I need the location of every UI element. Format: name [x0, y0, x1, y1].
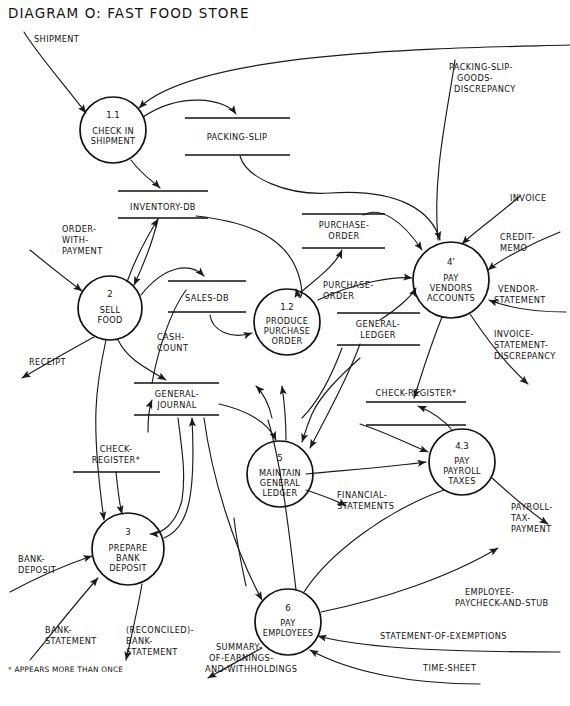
processes: 1.1 CHECK IN SHIPMENT 2 SELL FOOD 1.2 PR… — [78, 97, 495, 655]
flow-label-vendor-statement-1: VENDOR- — [498, 284, 539, 294]
flow-arrow-po-store-to-pay-vendors — [363, 212, 422, 250]
flow-line-packing-slip-goods-discrepancy — [437, 60, 455, 240]
process-number: 1.1 — [106, 110, 120, 120]
flow-label-vendor-statement-2: STATEMENT — [494, 295, 546, 305]
flow-label-payroll-tax-payment-2: TAX- — [510, 513, 531, 523]
data-store-label: GENERAL- — [155, 389, 199, 399]
flow-label-reconciled-bank-statement-1: (RECONCILED)- — [126, 625, 194, 635]
process-number: 1.2 — [280, 302, 294, 312]
data-store-general-ledger[interactable]: GENERAL- LEDGER — [337, 313, 420, 345]
data-store-check-register-upper[interactable]: CHECK-REGISTER* — [366, 388, 466, 425]
flow-label-purchase-order-2: ORDER — [323, 291, 354, 301]
flow-label-credit-memo-2: MEMO — [500, 243, 527, 253]
process-1-2-produce-purchase-order[interactable]: 1.2 PRODUCE PURCHASE ORDER — [254, 289, 320, 355]
process-name-line-3: ORDER — [272, 336, 303, 346]
process-name-line-2: VENDORS — [430, 283, 473, 293]
data-store-purchase-order[interactable]: PURCHASE- ORDER — [302, 214, 385, 248]
process-3-prepare-bank-deposit[interactable]: 3 PREPARE BANK DEPOSIT — [92, 513, 164, 585]
flow-arrow-sell-to-prepare-bank — [96, 340, 106, 520]
flow-arrow-prepare-to-journal — [164, 418, 193, 538]
data-store-label-2: REGISTER* — [92, 455, 140, 465]
data-store-sales-db[interactable]: SALES-DB — [168, 281, 246, 312]
flow-arrow-payroll-to-check-register — [418, 406, 452, 430]
process-name-line-2: FOOD — [97, 315, 122, 325]
flow-label-employee-paycheck-and-stub-2: PAYCHECK-AND-STUB — [455, 598, 549, 608]
flow-line-gl-down — [302, 348, 342, 418]
process-name-line-3: ACCOUNTS — [427, 293, 475, 303]
flow-label-employee-paycheck-and-stub-1: EMPLOYEE- — [465, 587, 514, 597]
data-store-label-2: ORDER — [328, 231, 359, 241]
flow-label-purchase-order-1: PURCHASE- — [323, 280, 374, 290]
flow-label-shipment: SHIPMENT — [34, 34, 80, 44]
flow-label-invoice: INVOICE — [510, 193, 547, 203]
process-5-maintain-general-ledger[interactable]: 5 MAINTAIN GENERAL LEDGER — [247, 441, 313, 507]
data-store-label-2: JOURNAL — [156, 400, 197, 410]
process-name-line-2: PURCHASE — [264, 326, 310, 336]
flow-label-bank-deposit-2: DEPOSIT — [18, 565, 57, 575]
flow-arrow-journal-to-prepare — [150, 418, 184, 534]
process-6-pay-employees[interactable]: 6 PAY EMPLOYEES — [255, 589, 321, 655]
flow-label-summary-of-earnings-1: SUMMARY- — [216, 642, 262, 652]
flow-arrow-maintain-up — [282, 386, 286, 440]
flow-label-payroll-tax-payment-1: PAYROLL- — [511, 502, 553, 512]
data-store-label: CHECK- — [100, 444, 133, 454]
flow-label-invoice-statement-discrepancy-2: STATEMENT- — [494, 340, 548, 350]
flow-arrow-bank-statement — [30, 578, 98, 660]
flow-label-packing-slip-goods-discrepancy-1: PACKING-SLIP- — [449, 62, 513, 72]
flow-arrow-order-with-payment — [30, 250, 82, 291]
process-number: 5 — [277, 453, 282, 463]
process-number: 4.3 — [455, 441, 469, 451]
data-store-inventory-db[interactable]: INVENTORY-DB — [118, 191, 208, 218]
flow-label-invoice-statement-discrepancy-1: INVOICE- — [494, 329, 534, 339]
process-number: 2 — [107, 289, 112, 299]
process-number: 6 — [285, 603, 290, 613]
process-name-line-3: DEPOSIT — [109, 563, 147, 573]
flow-label-reconciled-bank-statement-3: STATEMENT — [126, 647, 178, 657]
flow-label-credit-memo-1: CREDIT- — [500, 232, 535, 242]
process-1-1-check-in-shipment[interactable]: 1.1 CHECK IN SHIPMENT — [80, 97, 146, 163]
flow-label-bank-statement-1: BANK- — [45, 625, 72, 635]
flow-label-invoice-statement-discrepancy-3: DISCREPANCY — [494, 351, 556, 361]
data-store-label: PURCHASE- — [319, 220, 370, 230]
data-store-label-2: LEDGER — [360, 330, 396, 340]
flow-label-cash-count-2: COUNT — [157, 343, 189, 353]
flow-arrow-to-inventory-db — [131, 160, 160, 188]
data-store-general-journal[interactable]: GENERAL- JOURNAL — [134, 383, 219, 415]
data-flow-diagram: DIAGRAM O: FAST FOOD STORE — [0, 0, 570, 706]
flow-label-summary-of-earnings-3: AND-WITHHOLDINGS — [205, 664, 297, 674]
data-store-label: PACKING-SLIP — [207, 132, 268, 142]
process-4-prime-pay-vendors-accounts[interactable]: 4' PAY VENDORS ACCOUNTS — [413, 242, 489, 318]
flow-label-time-sheet: TIME-SHEET — [422, 663, 477, 673]
flow-arrow-inventory-db-to-sell — [134, 219, 158, 285]
data-store-packing-slip[interactable]: PACKING-SLIP — [185, 118, 290, 155]
process-name-line-2: PAYROLL — [443, 466, 481, 476]
flow-label-summary-of-earnings-2: OF-EARNINGS- — [209, 653, 274, 663]
flow-arrow-check-register-b-to-journal — [148, 400, 152, 432]
data-store-label: SALES-DB — [185, 293, 229, 303]
process-name-line-1: PRODUCE — [266, 316, 308, 326]
flow-arrow-pay-vendors-to-check-register — [414, 317, 442, 398]
flow-label-financial-statements-1: FINANCIAL- — [337, 490, 387, 500]
process-name-line-1: MAINTAIN — [259, 468, 301, 478]
flow-arrow-gl-to-maintain-2 — [302, 358, 360, 442]
process-2-sell-food[interactable]: 2 SELL FOOD — [78, 276, 142, 340]
flow-label-payroll-tax-payment-3: PAYMENT — [511, 524, 552, 534]
flow-label-bank-deposit-1: BANK- — [18, 554, 45, 564]
data-store-check-register-lower[interactable]: CHECK- REGISTER* — [73, 444, 160, 472]
process-4-3-pay-payroll-taxes[interactable]: 4.3 PAY PAYROLL TAXES — [429, 429, 495, 495]
flow-arrow-sales-db-to-produce-po — [210, 315, 252, 335]
data-store-label: CHECK-REGISTER* — [375, 388, 456, 398]
flow-arrow-maintain-to-payroll — [306, 462, 426, 474]
flow-label-reconciled-bank-statement-2: BANK- — [126, 636, 153, 646]
flow-arrow-check-register-to-payroll — [360, 424, 428, 452]
process-name-line-3: TAXES — [447, 476, 475, 486]
flow-arrow-maintain-from-journal — [256, 386, 272, 418]
process-name-line-3: LEDGER — [262, 488, 297, 498]
flow-arrow-shipment — [24, 32, 86, 113]
flow-label-order-with-payment-2: WITH- — [62, 235, 89, 245]
data-store-label: INVENTORY-DB — [130, 202, 196, 212]
process-number: 4' — [447, 257, 455, 267]
flow-label-packing-slip-goods-discrepancy-2: GOODS- — [457, 73, 493, 83]
process-number: 3 — [125, 527, 130, 537]
flow-label-statement-of-exemptions: STATEMENT-OF-EXEMPTIONS — [380, 631, 507, 641]
